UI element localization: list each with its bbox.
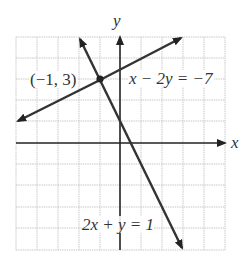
intersection-point bbox=[96, 75, 103, 82]
intersection-label: (−1, 3) bbox=[29, 71, 77, 88]
equation-label-2: 2x + y = 1 bbox=[82, 216, 154, 233]
x-axis-label: x bbox=[231, 134, 239, 151]
equation-label-1: x − 2y = −7 bbox=[128, 70, 214, 87]
y-axis-label: y bbox=[113, 12, 121, 29]
